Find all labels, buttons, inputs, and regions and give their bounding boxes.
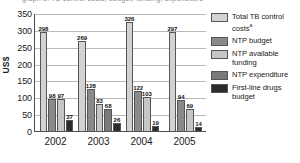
- bar-value-label: 69: [187, 103, 194, 109]
- bar: 97: [57, 99, 65, 132]
- y-tick-label: 300: [17, 26, 32, 35]
- cut-off-caption: graph of TB control costs, budget, fundi…: [0, 0, 300, 5]
- bar-value-label: 83: [96, 98, 103, 104]
- y-tick-label: 150: [17, 77, 32, 86]
- bar: 297: [169, 32, 177, 132]
- legend-item[interactable]: NTP expenditure: [211, 70, 300, 80]
- x-tick-label: 2004: [130, 136, 152, 147]
- legend-swatch: [211, 37, 228, 46]
- bar: 128: [87, 89, 95, 132]
- bar-group: 298989737: [34, 14, 77, 132]
- bar-value-label: 98: [49, 93, 56, 99]
- y-tick-label: 100: [17, 94, 32, 103]
- bar: 14: [195, 127, 203, 132]
- legend-label: Total TB controlcostsa: [232, 12, 284, 33]
- legend-label: First-line drugsbudget: [232, 83, 281, 101]
- bar-group: 32612210319: [120, 14, 163, 132]
- x-axis-ticks: 2002200320042005: [34, 136, 206, 150]
- legend-label: NTP budget: [232, 36, 272, 45]
- bar: 83: [96, 104, 104, 132]
- bar: 326: [126, 22, 134, 132]
- bar: 19: [152, 126, 160, 132]
- bar-value-label: 94: [178, 94, 185, 100]
- bar-value-label: 326: [124, 16, 134, 22]
- bar: 37: [66, 120, 74, 132]
- bar-value-label: 97: [58, 93, 65, 99]
- x-tick-label: 2002: [44, 136, 66, 147]
- bar-value-label: 68: [105, 103, 112, 109]
- bar-value-label: 37: [66, 114, 73, 120]
- bar-value-label: 269: [77, 35, 87, 41]
- plot-area: 2989897372691288368263261221031929794691…: [34, 14, 206, 132]
- legend-item[interactable]: NTP budget: [211, 36, 300, 46]
- bar: 269: [78, 41, 86, 132]
- bar-group: 269128836826: [77, 14, 120, 132]
- y-tick-label: 50: [22, 111, 32, 120]
- bar: 68: [104, 109, 112, 132]
- bar-value-label: 14: [195, 121, 202, 127]
- legend-item[interactable]: Total TB controlcostsa: [211, 12, 300, 33]
- legend-item[interactable]: First-line drugsbudget: [211, 83, 300, 101]
- y-tick-label: 0: [27, 128, 32, 137]
- bar-group: 297946914: [163, 14, 206, 132]
- cut-off-caption-text: graph of TB control costs, budget, fundi…: [22, 0, 300, 2]
- chart-legend: Total TB controlcostsaNTP budgetNTP avai…: [211, 12, 300, 104]
- legend-label: NTP availablefunding: [232, 49, 279, 67]
- bar: 69: [186, 109, 194, 132]
- legend-swatch: [211, 50, 228, 59]
- bar: 94: [177, 100, 185, 132]
- y-tick-label: 350: [17, 10, 32, 19]
- legend-swatch: [211, 13, 228, 22]
- bar: 298: [40, 32, 48, 132]
- x-tick-label: 2005: [173, 136, 195, 147]
- legend-label: NTP expenditure: [232, 70, 288, 79]
- bar-value-label: 122: [133, 85, 143, 91]
- bar-value-label: 103: [142, 91, 152, 97]
- legend-item[interactable]: NTP availablefunding: [211, 49, 300, 67]
- legend-swatch: [211, 71, 228, 80]
- x-tick-label: 2003: [87, 136, 109, 147]
- y-tick-label: 250: [17, 43, 32, 52]
- chart-figure: graph of TB control costs, budget, fundi…: [0, 0, 300, 163]
- bar-value-label: 128: [86, 83, 96, 89]
- bar: 122: [134, 91, 142, 132]
- legend-swatch: [211, 84, 228, 93]
- bar-value-label: 298: [38, 26, 48, 32]
- y-axis-ticks: 350300250200150100500: [6, 14, 32, 132]
- bar-value-label: 19: [152, 120, 159, 126]
- bar-groups: 2989897372691288368263261221031929794691…: [34, 14, 206, 132]
- bar-value-label: 297: [167, 26, 177, 32]
- bar: 103: [143, 97, 151, 132]
- y-tick-label: 200: [17, 60, 32, 69]
- bar: 98: [48, 99, 56, 132]
